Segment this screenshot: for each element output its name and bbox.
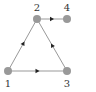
node-4 — [63, 15, 71, 23]
node-label-3: 3 — [64, 78, 70, 89]
arrow-icon-1-3 — [36, 69, 40, 73]
node-label-4: 4 — [64, 2, 70, 13]
directed-graph: 1 2 3 4 — [0, 0, 96, 92]
arrowheads — [21, 17, 55, 73]
node-2 — [33, 15, 41, 23]
node-3 — [63, 67, 71, 75]
arrow-icon-1-2 — [21, 40, 27, 46]
arrow-icon-2-4 — [50, 17, 54, 21]
edges — [8, 19, 67, 71]
arrow-icon-3-2 — [49, 42, 55, 48]
node-label-1: 1 — [5, 78, 11, 89]
node-1 — [4, 67, 12, 75]
node-label-2: 2 — [34, 2, 40, 13]
nodes — [4, 15, 71, 75]
